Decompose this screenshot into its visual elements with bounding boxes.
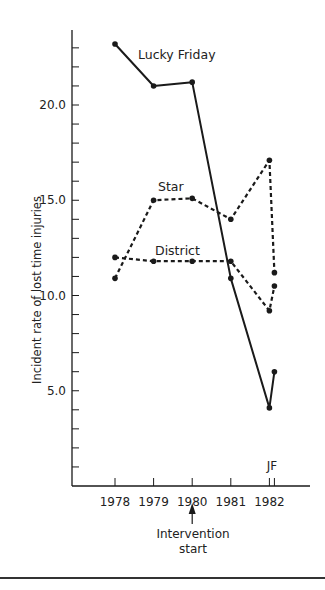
data-point-district xyxy=(272,283,278,289)
x-tick-label: 1978 xyxy=(100,495,131,509)
line-chart: 5.010.015.020.019781979198019811982 Inci… xyxy=(0,0,325,590)
y-tick-label: 5.0 xyxy=(47,384,66,398)
x-tick-label: 1981 xyxy=(216,495,247,509)
data-point-star xyxy=(112,276,118,282)
series-layer xyxy=(112,41,277,410)
bottom-rule xyxy=(0,577,325,579)
data-point-star xyxy=(272,270,278,276)
data-point-lucky-friday xyxy=(189,79,195,85)
axes: 5.010.015.020.019781979198019811982 xyxy=(39,30,310,524)
data-point-lucky-friday xyxy=(272,369,278,375)
data-point-lucky-friday xyxy=(151,83,157,89)
series-line-lucky-friday xyxy=(115,44,274,408)
sub-tick-label-jf: JF xyxy=(266,459,278,473)
data-point-star xyxy=(267,157,273,163)
data-point-district xyxy=(189,258,195,264)
data-point-district xyxy=(151,258,157,264)
series-label-star: Star xyxy=(158,179,184,194)
data-point-lucky-friday xyxy=(228,276,234,282)
y-tick-label: 20.0 xyxy=(39,98,66,112)
series-label-lucky-friday: Lucky Friday xyxy=(138,47,216,62)
annotation-intervention-line2: start xyxy=(179,542,207,556)
annotation-intervention-line1: Intervention xyxy=(156,527,229,541)
data-point-lucky-friday xyxy=(267,405,273,411)
data-point-district xyxy=(267,308,273,314)
data-point-star xyxy=(189,196,195,202)
data-point-star xyxy=(151,197,157,203)
series-label-district: District xyxy=(155,243,200,258)
data-point-lucky-friday xyxy=(112,41,118,47)
data-point-district xyxy=(228,258,234,264)
data-point-star xyxy=(228,217,234,223)
series-line-district xyxy=(115,257,274,310)
data-point-district xyxy=(112,255,118,261)
x-tick-label: 1982 xyxy=(254,495,285,509)
x-tick-label: 1979 xyxy=(138,495,169,509)
y-axis-title: Incident rate of lost time injuries xyxy=(30,196,44,384)
